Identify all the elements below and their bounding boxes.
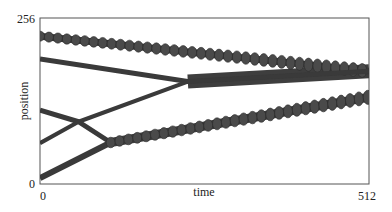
oscillation-bead: [133, 132, 142, 143]
x-tick-left: 0: [40, 189, 46, 203]
oscillation-bead: [328, 97, 337, 111]
y-axis-label: position: [17, 82, 31, 121]
oscillation-bead: [268, 55, 277, 68]
oscillation-bead: [301, 102, 310, 115]
oscillation-bead: [107, 38, 116, 49]
oscillation-bead: [292, 103, 301, 116]
oscillation-bead: [232, 51, 241, 63]
oscillation-bead: [186, 123, 195, 135]
oscillation-bead: [214, 49, 223, 61]
oscillation-bead: [44, 32, 53, 42]
oscillation-bead: [259, 54, 268, 67]
oscillation-bead: [241, 52, 250, 65]
oscillation-bead: [310, 100, 319, 113]
oscillation-bead: [283, 105, 292, 118]
oscillation-bead: [266, 108, 275, 121]
oscillation-bead: [248, 111, 257, 124]
oscillation-bead: [125, 40, 134, 51]
oscillation-bead: [179, 46, 188, 58]
oscillation-bead: [204, 119, 213, 131]
oscillation-bead: [71, 35, 80, 45]
x-tick-right: 512: [358, 189, 376, 203]
oscillation-bead: [62, 34, 71, 44]
oscillation-bead: [286, 56, 295, 69]
oscillation-bead: [170, 45, 179, 57]
oscillation-bead: [168, 126, 177, 137]
oscillation-bead: [188, 46, 197, 58]
oscillation-bead: [134, 41, 143, 52]
oscillation-bead: [337, 95, 346, 109]
oscillation-bead: [363, 90, 372, 104]
oscillation-bead: [275, 106, 284, 119]
oscillation-bead: [197, 47, 206, 59]
oscillation-bead: [213, 118, 222, 130]
oscillation-bead: [106, 137, 115, 148]
oscillation-bead: [257, 110, 266, 123]
oscillation-bead: [98, 37, 107, 48]
oscillation-bead: [319, 98, 328, 112]
oscillation-bead: [143, 42, 152, 53]
oscillation-bead: [80, 36, 89, 47]
oscillation-bead: [313, 59, 322, 72]
oscillation-bead: [239, 113, 248, 125]
oscillation-bead: [277, 55, 286, 68]
oscillation-bead: [89, 37, 98, 48]
oscillation-bead: [152, 43, 161, 54]
x-axis-label: time: [193, 185, 214, 199]
oscillation-bead: [53, 33, 62, 43]
oscillation-bead: [177, 124, 186, 136]
oscillation-bead: [124, 134, 133, 145]
oscillation-bead: [223, 50, 232, 62]
oscillation-bead: [142, 131, 151, 142]
oscillation-bead: [304, 58, 313, 71]
oscillation-bead: [159, 128, 168, 139]
oscillation-bead: [161, 44, 170, 56]
oscillation-bead: [36, 31, 45, 41]
oscillation-bead: [116, 39, 125, 50]
oscillation-bead: [206, 48, 215, 60]
oscillation-bead: [250, 53, 259, 66]
oscillation-bead: [151, 129, 160, 140]
oscillation-bead: [295, 57, 304, 70]
oscillation-bead: [354, 92, 363, 106]
y-tick-top: 256: [17, 12, 35, 26]
y-tick-bottom: 0: [29, 177, 35, 191]
oscillation-bead: [115, 136, 124, 147]
trajectory-chart: 256 0 0 512 time position: [0, 0, 392, 212]
oscillation-bead: [195, 121, 204, 133]
oscillation-bead: [221, 116, 230, 128]
oscillation-bead: [346, 94, 355, 108]
oscillation-bead: [230, 115, 239, 127]
